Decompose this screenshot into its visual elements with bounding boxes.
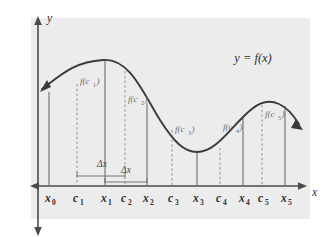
svg-text:5: 5: [288, 198, 292, 207]
svg-text:): ): [281, 109, 285, 119]
svg-text:1: 1: [108, 198, 112, 207]
svg-text:5: 5: [265, 198, 269, 207]
svg-text:0: 0: [52, 198, 56, 207]
svg-text:2: 2: [128, 198, 132, 207]
svg-text:f(c: f(c: [223, 122, 233, 132]
svg-text:c: c: [216, 192, 221, 204]
svg-text:1: 1: [80, 198, 84, 207]
svg-text:c: c: [258, 192, 263, 204]
x-axis-label: x: [311, 186, 318, 198]
svg-text:x: x: [100, 192, 107, 204]
delta-x-right: Δx: [120, 165, 132, 175]
svg-text:f(c: f(c: [80, 76, 90, 86]
svg-text:2: 2: [150, 198, 154, 207]
function-equation-label: y = f(x): [232, 51, 272, 65]
svg-text:c: c: [121, 192, 126, 204]
svg-text:x: x: [44, 192, 51, 204]
figure-root: y = f(x) y x x0c1x1c2x2c3x3c4x4c5x5 f(c1…: [0, 0, 334, 237]
svg-text:): ): [96, 76, 100, 86]
svg-text:): ): [144, 94, 148, 104]
svg-text:c: c: [73, 192, 78, 204]
riemann-sum-figure: y = f(x) y x x0c1x1c2x2c3x3c4x4c5x5 f(c1…: [0, 0, 334, 237]
svg-text:f(c: f(c: [128, 94, 138, 104]
delta-x-left: Δx: [96, 159, 108, 169]
svg-text:3: 3: [175, 198, 179, 207]
svg-text:x: x: [238, 192, 245, 204]
svg-text:): ): [191, 124, 195, 134]
y-axis-arrow-down-icon: [34, 227, 42, 236]
y-axis-label: y: [46, 12, 53, 25]
svg-text:3: 3: [200, 198, 204, 207]
svg-text:): ): [239, 122, 243, 132]
svg-text:x: x: [142, 192, 149, 204]
svg-text:f(c: f(c: [175, 124, 185, 134]
svg-text:f(c: f(c: [265, 109, 275, 119]
svg-text:4: 4: [223, 198, 227, 207]
svg-text:4: 4: [246, 198, 250, 207]
svg-text:c: c: [168, 192, 173, 204]
svg-text:x: x: [280, 192, 287, 204]
svg-text:x: x: [192, 192, 199, 204]
